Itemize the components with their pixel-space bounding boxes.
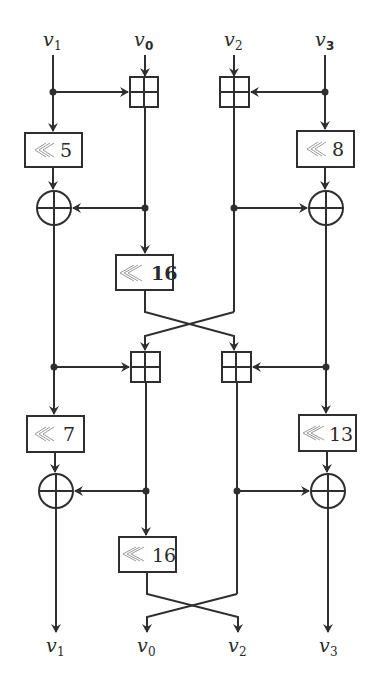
output-label-v2: v 2 (228, 634, 247, 659)
add-icon-v2 (220, 77, 249, 107)
input-label-v0: v 0 (134, 28, 153, 53)
svg-text:2: 2 (235, 39, 243, 53)
svg-text:v: v (137, 634, 148, 656)
input-label-v1: v 1 (43, 28, 62, 53)
wire-cross-v0-to-v2 (145, 290, 234, 350)
svg-text:v: v (46, 634, 57, 656)
add-icon-v0-2 (131, 352, 160, 382)
input-label-v3: v 3 (315, 28, 334, 53)
svg-text:0: 0 (145, 39, 153, 53)
rotate-left-8-box: 8 (297, 131, 354, 167)
svg-text:13: 13 (329, 423, 353, 445)
svg-text:8: 8 (332, 138, 344, 160)
xor-icon-right (309, 191, 343, 225)
rotate-left-13-box: 13 (299, 415, 356, 451)
svg-text:0: 0 (148, 645, 156, 659)
xor-icon-left (37, 191, 71, 225)
output-label-v1: v 1 (46, 634, 65, 659)
svg-text:7: 7 (63, 423, 75, 445)
svg-text:16: 16 (152, 544, 176, 566)
svg-text:v: v (224, 28, 235, 50)
svg-text:5: 5 (60, 139, 72, 161)
svg-text:v: v (319, 634, 330, 656)
rotate-left-16-box-top: 16 (116, 255, 177, 290)
add-icon-v0 (130, 77, 158, 107)
output-label-v3: v 3 (319, 634, 338, 659)
add-icon-v2-2 (222, 352, 251, 382)
wire-cross-v2-to-v0 (145, 312, 234, 350)
rotate-left-5-box: 5 (25, 133, 82, 167)
svg-text:2: 2 (239, 645, 247, 659)
rotate-left-16-box-bottom: 16 (119, 537, 176, 572)
svg-text:16: 16 (151, 262, 177, 284)
svg-text:1: 1 (57, 645, 65, 659)
wire-cross-v0-to-v2-out (147, 572, 238, 632)
svg-text:3: 3 (330, 645, 338, 659)
siphash-round-diagram: v 1 v 0 v 2 v 3 5 (0, 0, 370, 694)
svg-text:3: 3 (326, 39, 334, 53)
svg-text:v: v (43, 28, 54, 50)
xor-icon-right-2 (311, 474, 345, 508)
svg-text:1: 1 (54, 39, 62, 53)
svg-text:v: v (134, 28, 145, 50)
input-label-v2: v 2 (224, 28, 243, 53)
xor-icon-left-2 (39, 474, 73, 508)
svg-text:v: v (315, 28, 326, 50)
rotate-left-7-box: 7 (27, 416, 84, 452)
output-label-v0: v 0 (137, 634, 156, 659)
svg-text:v: v (228, 634, 239, 656)
